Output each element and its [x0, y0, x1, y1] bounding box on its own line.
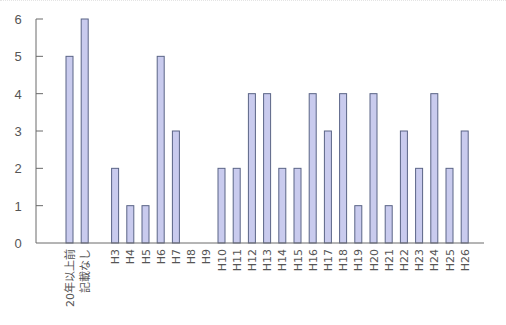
x-tick-label: H5	[140, 249, 153, 264]
x-tick-label: 記載なし	[78, 249, 92, 293]
bar	[127, 206, 134, 243]
bar	[294, 168, 301, 243]
y-axis: 0123456	[14, 12, 43, 251]
bar	[66, 56, 73, 243]
bar	[431, 94, 438, 243]
x-tick-label: H25	[444, 249, 457, 271]
x-tick-label: H20	[368, 249, 381, 271]
y-tick-label: 4	[14, 87, 21, 102]
bar	[81, 19, 88, 243]
x-tick-label: H9	[200, 249, 213, 264]
x-tick-label: H8	[185, 249, 198, 264]
y-tick-label: 5	[14, 49, 21, 64]
y-tick-label: 0	[14, 236, 21, 251]
x-tick-label: H13	[261, 249, 274, 271]
x-tick-label: H7	[170, 249, 183, 264]
x-tick-label: H12	[246, 249, 259, 271]
bar	[112, 168, 119, 243]
bar	[340, 94, 347, 243]
bar	[370, 94, 377, 243]
y-tick-label: 1	[14, 199, 21, 214]
bar	[324, 131, 331, 243]
bar	[446, 168, 453, 243]
x-tick-label: H6	[155, 249, 168, 264]
x-tick-label: H18	[337, 249, 350, 271]
bar	[355, 206, 362, 243]
bar	[461, 131, 468, 243]
x-tick-label: H11	[231, 249, 244, 271]
y-tick-label: 2	[14, 161, 21, 176]
bar	[400, 131, 407, 243]
bar	[309, 94, 316, 243]
x-tick-label: H16	[307, 249, 320, 271]
bar-chart: 0123456 20年以上前記載なしH3H4H5H6H7H8H9H10H11H1…	[0, 0, 506, 325]
x-axis: 20年以上前記載なしH3H4H5H6H7H8H9H10H11H12H13H14H…	[36, 243, 484, 307]
x-tick-label: H26	[459, 249, 472, 271]
x-tick-label: H4	[124, 249, 137, 264]
bar	[264, 94, 271, 243]
x-tick-label: H24	[428, 249, 441, 271]
bar	[172, 131, 179, 243]
x-tick-label: H23	[413, 249, 426, 271]
bar	[385, 206, 392, 243]
bar	[416, 168, 423, 243]
x-tick-label: 20年以上前	[63, 249, 77, 307]
bar	[142, 206, 149, 243]
x-tick-label: H3	[109, 249, 122, 264]
y-tick-label: 6	[14, 12, 21, 27]
x-tick-label: H14	[276, 249, 289, 271]
y-tick-label: 3	[14, 124, 21, 139]
bar	[279, 168, 286, 243]
x-tick-label: H17	[322, 249, 335, 271]
bar	[248, 94, 255, 243]
x-tick-label: H22	[398, 249, 411, 271]
bars	[66, 19, 468, 243]
x-tick-label: H19	[352, 249, 365, 271]
bar	[157, 56, 164, 243]
x-tick-label: H21	[383, 249, 396, 271]
x-tick-label: H15	[292, 249, 305, 271]
bar	[233, 168, 240, 243]
bar	[218, 168, 225, 243]
x-tick-label: H10	[216, 249, 229, 271]
